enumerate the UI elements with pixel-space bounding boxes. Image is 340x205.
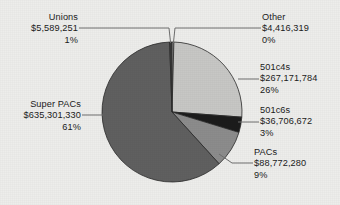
pie-label-501c4s: 501c4s $267,171,784 26%	[260, 62, 340, 96]
pie-label-unions-title: Unions	[8, 12, 78, 23]
pie-label-super-pacs-value: $635,301,330	[2, 110, 81, 121]
pie-label-super-pacs: Super PACs $635,301,330 61%	[2, 99, 81, 133]
pie-label-501c6s-value: $36,706,672	[260, 116, 340, 127]
pie-chart-figure: Unions $5,589,251 1% Other $4,416,319 0%…	[0, 0, 340, 205]
pie-label-other: Other $4,416,319 0%	[262, 12, 336, 46]
pie-label-501c6s-percent: 3%	[260, 128, 340, 139]
pie-label-unions: Unions $5,589,251 1%	[8, 12, 78, 46]
pie-label-other-value: $4,416,319	[262, 23, 336, 34]
pie-label-other-percent: 0%	[262, 35, 336, 46]
pie-label-other-title: Other	[262, 12, 336, 23]
leader-line-other	[173, 28, 261, 43]
pie-label-unions-percent: 1%	[8, 35, 78, 46]
pie-label-unions-value: $5,589,251	[8, 23, 78, 34]
pie-label-501c4s-percent: 26%	[260, 85, 340, 96]
pie-label-pacs-percent: 9%	[254, 170, 338, 181]
leader-line-unions	[79, 28, 171, 43]
pie-label-pacs-value: $88,772,280	[254, 158, 338, 169]
pie-label-501c4s-title: 501c4s	[260, 62, 340, 73]
pie-label-501c6s: 501c6s $36,706,672 3%	[260, 105, 340, 139]
pie-label-super-pacs-percent: 61%	[2, 122, 81, 133]
pie-slices	[102, 42, 242, 182]
pie-label-super-pacs-title: Super PACs	[2, 99, 81, 110]
pie-label-501c6s-title: 501c6s	[260, 105, 340, 116]
pie-label-pacs: PACs $88,772,280 9%	[254, 147, 338, 181]
pie-label-501c4s-value: $267,171,784	[260, 73, 340, 84]
pie-slice-501c4s[interactable]	[172, 42, 242, 117]
pie-label-pacs-title: PACs	[254, 147, 338, 158]
